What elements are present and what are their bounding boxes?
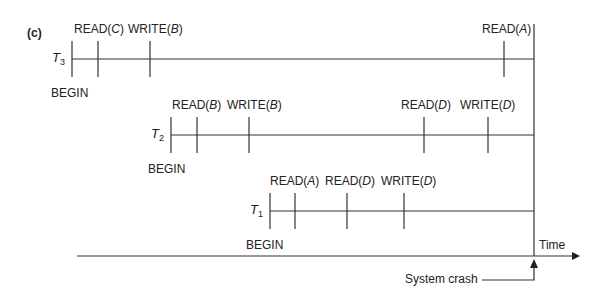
t3-label: T3 — [52, 50, 65, 67]
time-axis-arrowhead — [572, 252, 580, 260]
time-axis-label: Time — [539, 238, 565, 252]
t3-event-read-c: READ(C) — [74, 22, 124, 36]
crash-leader — [482, 268, 534, 280]
t3-begin-label: BEGIN — [51, 86, 88, 100]
system-crash-label: System crash — [405, 272, 478, 286]
t1-event-read-d: READ(D) — [325, 174, 375, 188]
t1-begin-label: BEGIN — [246, 238, 283, 252]
crash-arrowhead — [530, 259, 538, 268]
t2-event-write-d: WRITE(D) — [460, 98, 515, 112]
t3-event-write-b: WRITE(B) — [128, 22, 183, 36]
part-label: (c) — [27, 26, 42, 40]
t1-label: T1 — [250, 202, 263, 219]
t2-event-read-b: READ(B) — [172, 98, 221, 112]
t3-event-read-a: READ(A) — [482, 22, 531, 36]
t2-event-write-b: WRITE(B) — [227, 98, 282, 112]
t1-event-read-a: READ(A) — [270, 174, 319, 188]
t2-begin-label: BEGIN — [148, 162, 185, 176]
t2-event-read-d: READ(D) — [401, 98, 451, 112]
t1-event-write-d: WRITE(D) — [381, 174, 436, 188]
timeline-diagram — [0, 0, 603, 294]
t2-label: T2 — [151, 126, 164, 143]
